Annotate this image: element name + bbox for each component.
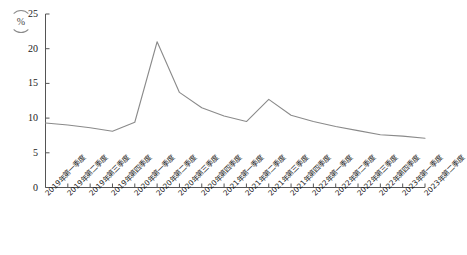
x-axis-ticks — [46, 184, 426, 188]
axes — [46, 14, 426, 188]
data-series-line — [46, 42, 426, 138]
y-axis-ticks — [46, 14, 50, 188]
unit-text: % — [17, 17, 25, 27]
